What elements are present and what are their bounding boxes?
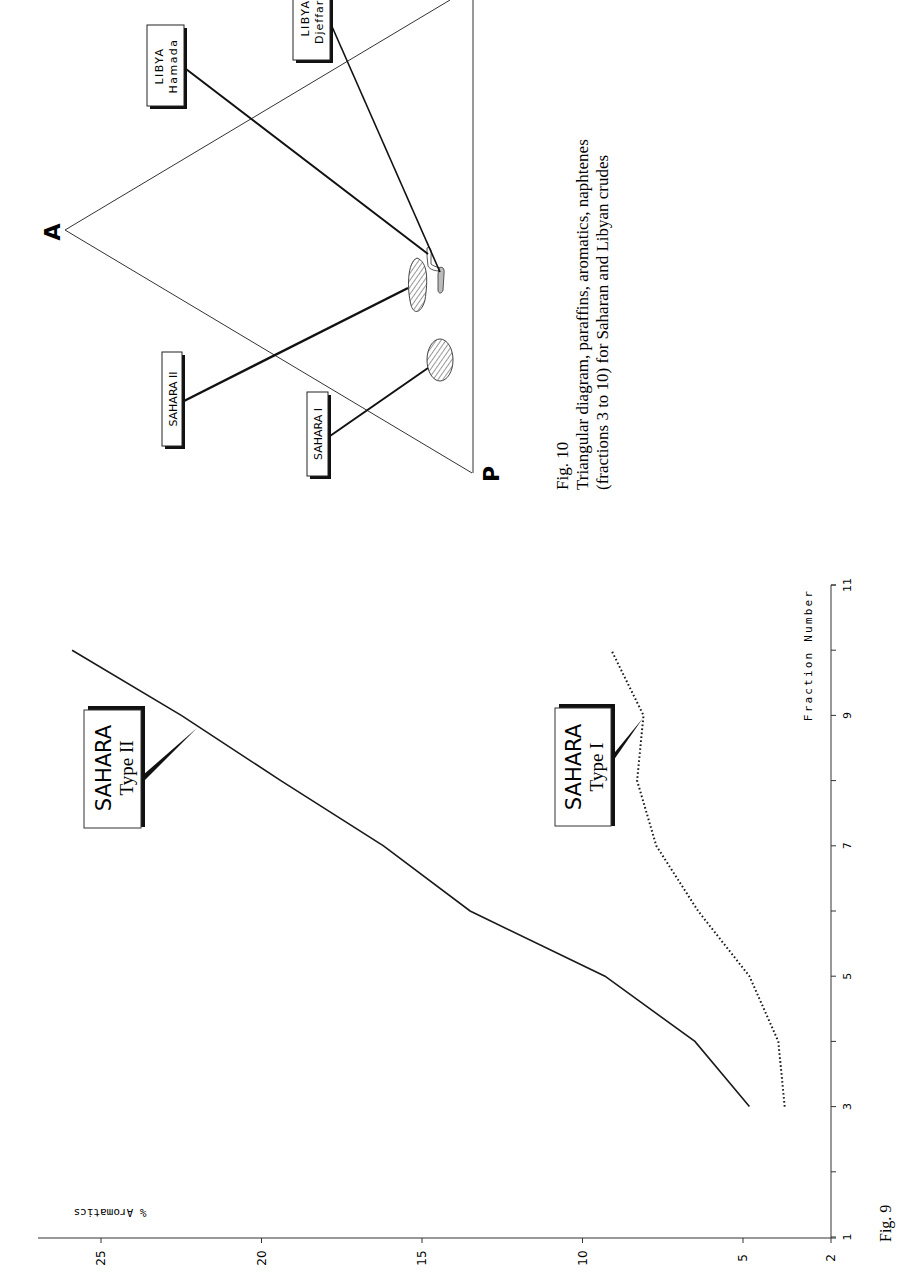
series-sahara-type2 [72, 650, 749, 1106]
sahara2-leader [184, 288, 408, 401]
sahara1-region [427, 339, 453, 381]
sahara-type2-label: SAHARA Type II [84, 706, 197, 828]
vertex-p-label: P [479, 466, 504, 482]
hamada-label-line2: Hamada [167, 38, 180, 93]
sahara1-label: SAHARA I [312, 408, 325, 460]
fig9-caption: Fig. 9 [877, 1205, 895, 1242]
fraction-tick-label: 5 [841, 973, 854, 980]
djeffara-label-line2: Djeffara [313, 0, 326, 44]
fig10-caption-line1: Triangular diagram, paraffins, aromatics… [573, 139, 592, 490]
aromatics-axis-label: % Aromatics [74, 1206, 147, 1219]
fig10-caption-line2: (fractions 3 to 10) for Saharan and Liby… [593, 155, 612, 490]
ternary-diagram: A P SAHARA II SAHARA I LIBYA Hamada [40, 0, 612, 490]
fraction-tick-label: 7 [841, 842, 854, 849]
fraction-tick-label: 11 [841, 578, 854, 592]
aromatics-ticks: 2510152025 [94, 1238, 838, 1266]
fraction-axis-label: Fraction Number [802, 589, 815, 721]
line-chart: 1357911 Fraction Number 2510152025 % Aro… [38, 578, 895, 1266]
hamada-label-box: LIBYA Hamada [147, 25, 187, 109]
hamada-label-line1: LIBYA [153, 47, 166, 84]
aromatics-tick-label: 25 [94, 1250, 108, 1265]
vertex-a-label: A [40, 223, 65, 240]
aromatics-tick-label: 20 [255, 1250, 269, 1265]
sahara2-label: SAHARA II [167, 371, 180, 426]
sahara-type1-label-line1: SAHARA [562, 723, 586, 810]
sahara-type2-label-line2: Type II [116, 740, 137, 795]
fig10-caption-title: Fig. 10 [553, 442, 572, 490]
aromatics-tick-label: 2 [824, 1254, 838, 1262]
aromatics-tick-label: 5 [736, 1254, 750, 1262]
sahara2-region [409, 258, 427, 311]
djeffara-leader [330, 22, 440, 272]
series-sahara-type1 [611, 650, 784, 1106]
djeffara-label-box: LIBYA Djeffara [293, 0, 333, 63]
djeffara-label-line1: LIBYA [299, 0, 312, 37]
aromatics-tick-label: 10 [576, 1250, 590, 1265]
fraction-tick-label: 3 [841, 1103, 854, 1110]
fraction-ticks: 1357911 [831, 578, 854, 1241]
fraction-tick-label: 1 [841, 1234, 854, 1241]
triangle-edge-a-top [65, 0, 450, 230]
sahara-type1-label: SAHARA Type I [555, 704, 643, 826]
aromatics-tick-label: 15 [415, 1250, 429, 1265]
sahara1-leader [330, 368, 428, 436]
sahara-type1-label-line2: Type I [586, 743, 607, 792]
page-canvas: A P SAHARA II SAHARA I LIBYA Hamada [0, 0, 901, 1277]
sahara1-label-box: SAHARA I [307, 392, 331, 479]
fraction-tick-label: 9 [841, 712, 854, 719]
sahara2-label-box: SAHARA II [162, 352, 185, 449]
sahara-type2-label-line1: SAHARA [92, 724, 116, 811]
